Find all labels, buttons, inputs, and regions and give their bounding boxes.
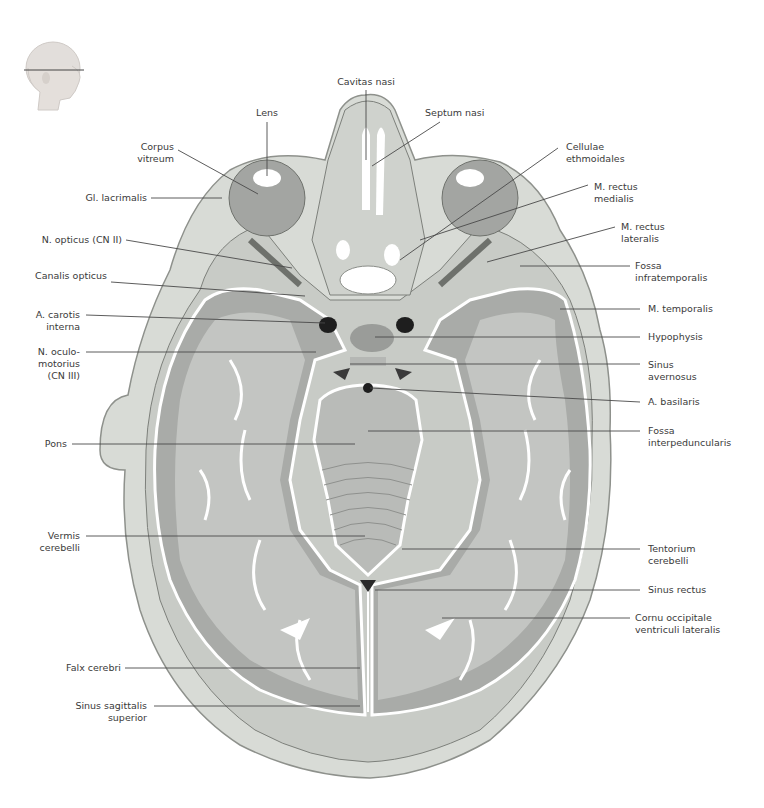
label-septum-nasi: Septum nasi: [425, 107, 484, 119]
label-falx-cerebri: Falx cerebri: [66, 662, 121, 674]
label-cornu-occipitale: Cornu occipitale ventriculi lateralis: [635, 612, 720, 636]
label-cellulae-ethmoidales: Cellulae ethmoidales: [566, 141, 625, 165]
label-sinus-sagittalis-superior: Sinus sagittalis superior: [75, 700, 147, 724]
label-hypophysis: Hypophysis: [648, 331, 703, 343]
label-lens: Lens: [250, 107, 284, 119]
label-m-rectus-lateralis: M. rectus lateralis: [621, 221, 665, 245]
head-orientation-icon: [24, 42, 84, 110]
label-sinus-cavernosus: Sinus avernosus: [648, 359, 697, 383]
label-n-opticus: N. opticus (CN II): [42, 234, 122, 246]
label-n-oculomotorius: N. oculo- motorius (CN III): [38, 346, 80, 382]
label-vermis-cerebelli: Vermis cerebelli: [40, 530, 80, 554]
label-sinus-rectus: Sinus rectus: [648, 584, 706, 596]
label-corpus-vitreum: Corpus vitreum: [137, 141, 174, 165]
nasal-ethmoid-region: [312, 101, 425, 295]
label-fossa-infratemporalis: Fossa infratemporalis: [635, 260, 707, 284]
label-a-basilaris: A. basilaris: [648, 396, 700, 408]
label-tentorium-cerebelli: Tentorium cerebelli: [648, 543, 695, 567]
label-a-carotis-interna: A. carotis interna: [36, 309, 80, 333]
label-m-temporalis: M. temporalis: [648, 303, 713, 315]
label-pons: Pons: [45, 438, 67, 450]
label-gl-lacrimalis: Gl. lacrimalis: [85, 192, 147, 204]
label-canalis-opticus: Canalis opticus: [35, 270, 107, 282]
hypophysis-shape: [350, 324, 394, 352]
label-m-rectus-medialis: M. rectus medialis: [594, 181, 638, 205]
label-fossa-interpeduncularis: Fossa interpeduncularis: [648, 425, 731, 449]
label-cavitas-nasi: Cavitas nasi: [330, 76, 402, 88]
